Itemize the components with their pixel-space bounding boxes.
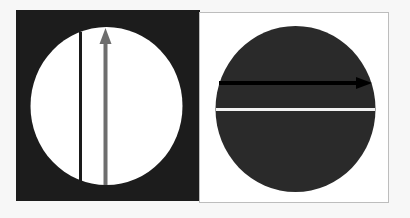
figure bbox=[0, 0, 410, 218]
right-panel bbox=[200, 13, 389, 203]
diagram-canvas bbox=[0, 0, 410, 218]
left-panel bbox=[16, 10, 200, 201]
